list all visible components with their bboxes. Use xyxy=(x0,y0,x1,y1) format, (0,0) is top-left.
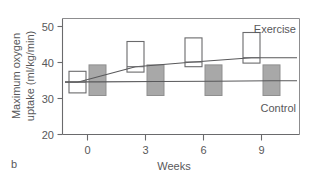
exercise-box-week-3 xyxy=(127,42,144,73)
chart-canvas: 50 40 30 20 0 3 6 9 Weeks Maximum oxygen… xyxy=(0,0,309,177)
y-axis-ticks xyxy=(58,27,63,135)
y-axis-title-line2: uptake (ml/kg/min) xyxy=(24,31,36,121)
x-axis-ticks xyxy=(88,135,262,141)
x-tick-label-9: 9 xyxy=(258,144,264,156)
y-axis-tick-labels: 50 40 30 20 xyxy=(42,21,54,141)
control-box-week-3 xyxy=(147,65,164,96)
panel-label: b xyxy=(11,158,17,170)
figure-panel-b: 50 40 30 20 0 3 6 9 Weeks Maximum oxygen… xyxy=(0,0,309,177)
series-label-exercise: Exercise xyxy=(254,23,296,35)
control-box-week-6 xyxy=(205,65,222,96)
x-axis-tick-labels: 0 3 6 9 xyxy=(84,144,264,156)
series-control-boxes xyxy=(89,65,280,96)
x-tick-label-6: 6 xyxy=(200,144,206,156)
x-tick-label-0: 0 xyxy=(84,144,90,156)
y-tick-label-40: 40 xyxy=(42,57,54,69)
x-axis-title: Weeks xyxy=(157,160,191,172)
control-box-week-0 xyxy=(89,65,106,96)
series-label-control: Control xyxy=(261,102,296,114)
y-tick-label-20: 20 xyxy=(42,129,54,141)
control-box-week-9 xyxy=(263,65,280,96)
y-tick-label-50: 50 xyxy=(42,21,54,33)
y-tick-label-30: 30 xyxy=(42,93,54,105)
x-tick-label-3: 3 xyxy=(142,144,148,156)
y-axis-title-line1: Maximum oxygen xyxy=(10,33,22,119)
